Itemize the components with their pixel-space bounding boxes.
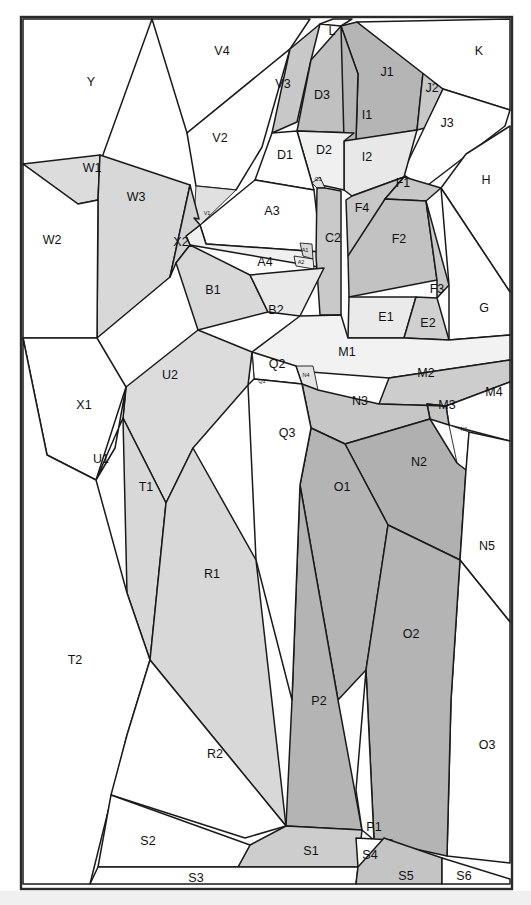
region-label-m2: M2	[417, 366, 434, 380]
region-label-v3: V3	[275, 77, 290, 91]
region-label-y: Y	[87, 75, 96, 89]
region-label-b2: B2	[268, 303, 283, 317]
region-label-g: G	[479, 301, 489, 315]
region-s3[interactable]	[90, 867, 358, 884]
region-label-q2: Q2	[269, 357, 286, 371]
region-label-o3: O3	[479, 738, 496, 752]
region-label-o1: O1	[334, 480, 351, 494]
region-c2[interactable]	[316, 188, 341, 315]
region-label-s4: S4	[362, 848, 377, 862]
region-label-w1: W1	[83, 161, 102, 175]
region-label-d2: D2	[316, 143, 332, 157]
region-label-a2: A2	[298, 259, 305, 265]
region-label-n2: N2	[411, 455, 427, 469]
region-label-m3: M3	[438, 398, 455, 412]
region-label-x2: X2	[173, 235, 188, 249]
region-label-s1: S1	[303, 844, 318, 858]
region-label-m1: M1	[338, 345, 355, 359]
region-label-v4: V4	[214, 44, 229, 58]
region-label-j2: J2	[425, 81, 438, 95]
region-label-d1: D1	[277, 148, 293, 162]
region-label-j1: J1	[380, 65, 393, 79]
region-label-n4: N4	[302, 372, 309, 378]
region-label-a1: A1	[302, 247, 309, 253]
region-label-p1: P1	[366, 820, 381, 834]
region-label-f3: F3	[430, 282, 445, 296]
region-label-c2: C2	[325, 231, 341, 245]
region-label-s3: S3	[188, 871, 203, 885]
region-label-r2: R2	[207, 747, 223, 761]
region-label-t2: T2	[68, 653, 83, 667]
region-label-s2: S2	[140, 834, 155, 848]
region-label-m4: M4	[485, 385, 502, 399]
region-label-a3: A3	[264, 204, 279, 218]
region-label-k: K	[475, 44, 484, 58]
region-label-d3: D3	[314, 88, 330, 102]
region-label-v1: V1	[204, 210, 211, 216]
region-label-f1: F1	[396, 176, 411, 190]
region-label-x1: X1	[76, 398, 91, 412]
region-label-j3: J3	[440, 116, 453, 130]
region-label-a4: A4	[257, 255, 272, 269]
region-label-n1: N1	[460, 426, 467, 432]
region-label-o2: O2	[403, 627, 420, 641]
region-label-s6: S6	[456, 869, 471, 883]
region-label-i1: I1	[362, 108, 372, 122]
region-label-i2: I2	[362, 150, 372, 164]
region-label-q3: Q3	[279, 426, 296, 440]
region-label-w3: W3	[127, 190, 146, 204]
region-label-s5: S5	[398, 869, 413, 883]
region-label-v2: V2	[212, 131, 227, 145]
region-label-e1: E1	[378, 310, 393, 324]
region-label-u2: U2	[162, 368, 178, 382]
region-label-l: L	[329, 24, 336, 38]
region-partition-svg: YV4V2V3LD3J1J2KJ3HI1I2D2D1C1A3V1A4A1A2C2…	[0, 0, 531, 905]
diagram-canvas: YV4V2V3LD3J1J2KJ3HI1I2D2D1C1A3V1A4A1A2C2…	[0, 0, 531, 905]
region-label-w2: W2	[43, 233, 62, 247]
region-label-t1: T1	[139, 480, 154, 494]
region-label-u1: U1	[93, 452, 109, 466]
region-label-n5: N5	[479, 539, 495, 553]
region-label-p2: P2	[311, 694, 326, 708]
region-label-e2: E2	[420, 316, 435, 330]
region-label-q1: Q1	[258, 378, 265, 384]
region-label-c1: C1	[314, 176, 321, 182]
region-label-n3: N3	[352, 394, 368, 408]
region-label-r1: R1	[204, 567, 220, 581]
bottom-strip	[0, 891, 531, 905]
region-label-h: H	[481, 173, 490, 187]
region-o2[interactable]	[366, 525, 460, 856]
region-label-b1: B1	[205, 283, 220, 297]
region-label-f4: F4	[355, 201, 370, 215]
region-label-f2: F2	[392, 232, 407, 246]
